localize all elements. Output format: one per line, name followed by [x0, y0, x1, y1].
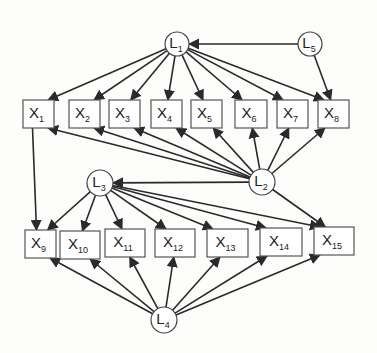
observed-node-x3: X3 [109, 100, 140, 128]
observed-node-x10: X10 [60, 231, 100, 259]
edge-l5-to-x8 [314, 55, 331, 100]
latent-node-l3: L3 [87, 170, 113, 196]
observed-node-x6: X6 [235, 100, 267, 128]
edge-l1-to-x7 [188, 50, 283, 100]
edge-l2-to-x5 [213, 128, 253, 172]
edge-l3-to-x11 [106, 195, 122, 229]
observed-node-x2: X2 [69, 100, 100, 128]
edge-l4-to-x14 [175, 256, 267, 313]
edge-l3-to-x15 [113, 186, 320, 228]
edge-l1-to-x8 [188, 48, 324, 100]
observed-node-x1: X1 [23, 100, 54, 128]
edge-l1-to-x1 [48, 49, 166, 100]
edge-l4-to-x11 [130, 257, 158, 309]
observed-node-x14: X14 [260, 228, 302, 256]
edge-l4-to-x15 [176, 255, 320, 315]
path-diagram: X1X2X3X4X5X6X7X8X9X10X11X12X13X14X15L1L5… [0, 0, 377, 353]
edge-l4-to-x12 [166, 257, 174, 307]
edge-l3-to-x13 [112, 188, 213, 229]
observed-node-x4: X4 [151, 100, 182, 128]
edge-l4-to-x9 [50, 258, 153, 314]
latent-node-l4: L4 [151, 307, 177, 333]
edge-l1-to-x5 [182, 55, 203, 100]
edge-l2-to-x3 [134, 128, 250, 177]
edge-l1-to-x4 [168, 56, 175, 100]
observed-node-x15: X15 [314, 227, 354, 255]
edge-l2-to-l3 [113, 182, 249, 183]
observed-node-x11: X11 [105, 229, 145, 257]
edges-layer [33, 44, 331, 315]
edge-l2-to-x2 [94, 128, 250, 178]
edge-l2-to-x8 [272, 128, 325, 174]
edge-l3-to-x9 [48, 192, 91, 230]
edge-l1-to-x6 [186, 52, 242, 100]
edge-x1-to-x9 [33, 128, 37, 230]
edge-l4-to-x13 [173, 257, 220, 310]
edge-l3-to-x10 [82, 195, 95, 231]
observed-node-x13: X13 [207, 229, 248, 257]
observed-node-x7: X7 [277, 100, 308, 128]
edge-l2-to-x15 [273, 190, 326, 228]
latent-node-l5: L5 [298, 32, 322, 56]
observed-node-x5: X5 [191, 100, 222, 128]
observed-node-x9: X9 [25, 230, 56, 258]
edge-l2-to-x6 [252, 128, 259, 169]
latent-node-l2: L2 [249, 169, 275, 195]
latent-node-l1: L1 [165, 32, 189, 56]
edge-l2-to-x7 [268, 128, 289, 170]
observed-node-x8: X8 [318, 100, 349, 128]
edge-l1-to-x3 [131, 53, 170, 100]
observed-node-x12: X12 [155, 229, 195, 257]
edge-l2-to-x4 [176, 128, 251, 175]
